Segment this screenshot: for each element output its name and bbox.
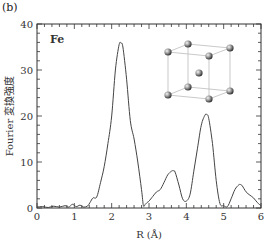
plot-frame	[37, 24, 261, 208]
y-tick-label: 0	[27, 203, 33, 214]
y-tick-label: 20	[20, 111, 33, 122]
element-annotation: Fe	[50, 33, 64, 46]
y-tick-label: 30	[20, 65, 33, 76]
x-tick-label: 2	[108, 211, 114, 222]
y-tick-label: 10	[20, 157, 33, 168]
y-axis-title: Fourier 変換強度	[3, 76, 15, 157]
chart: 0123456010203040 R (Å) Fourier 変換強度 Fe	[0, 0, 271, 243]
x-tick-label: 1	[71, 211, 77, 222]
x-tick-label: 0	[34, 211, 40, 222]
x-tick-label: 5	[220, 211, 226, 222]
y-tick-label: 40	[20, 19, 33, 30]
bcc-crystal-inset	[164, 40, 233, 102]
x-tick-label: 3	[146, 211, 152, 222]
data-line-fe	[37, 42, 261, 207]
x-axis-title: R (Å)	[136, 229, 162, 240]
x-tick-label: 4	[183, 211, 189, 222]
axis-ticks	[37, 24, 261, 208]
x-tick-label: 6	[258, 211, 264, 222]
